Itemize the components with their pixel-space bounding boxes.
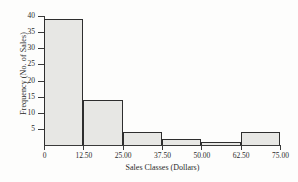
x-axis-tick: 50.00 <box>201 146 202 150</box>
x-axis-tick-label: 50.00 <box>193 151 210 160</box>
x-axis-tick-label: 37.50 <box>154 151 171 160</box>
x-axis-tick-label: 0 <box>43 151 47 160</box>
y-axis-tick-label: 20 <box>28 76 36 85</box>
histogram-bar <box>123 132 162 145</box>
y-axis-tick-label: 25 <box>28 59 36 68</box>
y-axis-tick-label: 40 <box>28 11 36 20</box>
histogram-bar <box>83 100 122 145</box>
x-axis-title: Sales Classes (Dollars) <box>44 163 281 172</box>
x-axis-tick-label: 12.50 <box>75 151 92 160</box>
histogram-figure: Frequency (No. of Sales) 510152025303540… <box>0 0 298 182</box>
x-axis-tick: 62.50 <box>241 146 242 150</box>
histogram-bar <box>162 139 201 145</box>
x-axis-tick: 12.50 <box>83 146 84 150</box>
x-axis-tick-label: 75.00 <box>272 151 289 160</box>
y-axis-tick-label: 35 <box>28 27 36 36</box>
x-axis-tick-label: 62.50 <box>233 151 250 160</box>
plot-area <box>44 16 280 145</box>
x-axis-tick-label: 25.00 <box>115 151 132 160</box>
y-axis-tick-label: 30 <box>28 43 36 52</box>
y-axis-tick-label: 15 <box>28 92 36 101</box>
y-axis-tick-label: 5 <box>31 124 35 133</box>
histogram-bar <box>44 19 83 145</box>
histogram-bar <box>241 132 280 145</box>
y-axis-tick-label: 10 <box>28 108 36 117</box>
x-axis-tick: 0 <box>44 146 45 150</box>
y-axis-title: Frequency (No. of Sales) <box>19 4 28 144</box>
histogram-bar <box>201 142 240 145</box>
x-axis-tick: 37.50 <box>162 146 163 150</box>
x-axis-tick: 75.00 <box>280 146 281 150</box>
x-axis-tick: 25.00 <box>123 146 124 150</box>
